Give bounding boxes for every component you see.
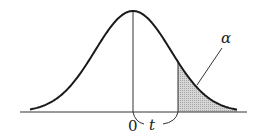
t-label: t (149, 116, 156, 134)
normal-distribution-figure: 0 t α (0, 0, 260, 136)
t-brace (133, 112, 178, 124)
chart-svg: 0 t α (0, 0, 260, 136)
zero-label: 0 (128, 117, 138, 135)
alpha-leader-line (197, 48, 222, 85)
alpha-label: α (221, 29, 231, 47)
